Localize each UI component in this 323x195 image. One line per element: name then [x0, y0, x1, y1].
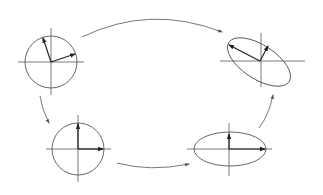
panel-top-left — [18, 28, 84, 95]
flow-arrow-right-icon — [259, 95, 273, 128]
vector-v2-arrow-icon — [43, 38, 51, 62]
vector-sigma1-u1-arrow-icon — [229, 45, 260, 61]
vector-v1-arrow-icon — [51, 54, 75, 62]
panel-bottom-right — [187, 123, 272, 176]
flow-arrow-top-icon — [82, 19, 222, 37]
panel-top-right — [220, 28, 305, 96]
flow-arrow-bottom-icon — [117, 163, 189, 168]
flow-arrow-left-icon — [40, 96, 49, 123]
rotated-ellipse — [220, 28, 299, 96]
svd-diagram — [0, 0, 323, 195]
panel-bottom-left — [46, 115, 111, 182]
